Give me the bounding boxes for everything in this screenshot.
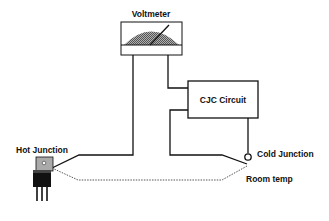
room-temp-label: Room temp: [246, 174, 293, 184]
cold-junction-label: Cold Junction: [257, 149, 314, 159]
hot-junction-label: Hot Junction: [16, 145, 68, 155]
wire-thermocouple-dotted: [52, 166, 247, 180]
cjc-circuit: CJC Circuit: [188, 81, 258, 118]
to220-package-icon: [33, 157, 53, 201]
voltmeter-label: Voltmeter: [132, 9, 171, 19]
cjc-circuit-label: CJC Circuit: [200, 95, 246, 105]
cold-junction-terminal-icon: [245, 154, 251, 160]
thermocouple-diagram: Voltmeter CJC Circuit Cold Junction Room…: [0, 0, 329, 221]
voltmeter: Voltmeter: [121, 9, 182, 55]
wire-voltmeter-to-cjc: [168, 55, 188, 88]
